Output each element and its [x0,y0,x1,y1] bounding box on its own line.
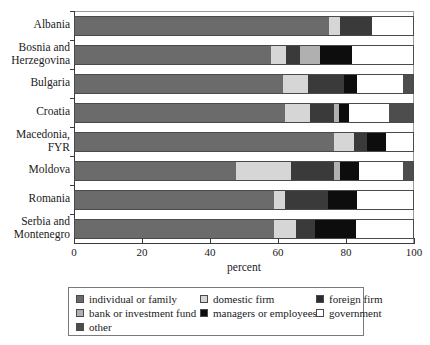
x-axis-tick-label: 20 [122,246,162,258]
bar-row [74,219,414,239]
bar-segment [300,46,320,64]
bar-segment [339,104,349,122]
y-axis-label: Serbia andMontenegro [0,215,70,240]
bar-segment [315,220,356,238]
y-axis-label-line: Bosnia and [0,41,70,54]
bar-segment [357,75,403,93]
bar-segment [75,104,285,122]
legend-grid: individual or familydomestic firmforeign… [76,292,357,334]
x-axis-tick [346,238,347,244]
bar-row [74,161,414,181]
bar-segment [274,191,284,209]
bar-segment [296,220,315,238]
bar-segment [356,220,413,238]
stacked-bar [74,219,414,239]
legend-swatch-icon [76,295,84,303]
y-axis-label: Moldova [0,163,70,176]
stacked-bar [74,103,414,123]
bar-row [74,190,414,210]
x-axis-tick-label: 100 [394,246,430,258]
bar-segment [308,75,343,93]
stacked-bar [74,74,414,94]
y-axis-label-line: Herzegovina [0,54,70,67]
legend-swatch-icon [76,323,84,331]
legend-swatch-icon [316,295,324,303]
bar-segment [75,191,274,209]
bar-segment [75,46,271,64]
stacked-bar [74,161,414,181]
bar-segment [367,133,386,151]
bar-segment [340,17,372,35]
legend-label: government [329,307,382,319]
y-axis-label-line: Serbia and [0,215,70,228]
legend-swatch-icon [76,309,84,317]
bar-segment [403,162,413,180]
bar-segment [340,162,359,180]
x-axis-tick [74,238,75,244]
bar-segment [75,75,283,93]
legend-item: government [316,307,370,319]
x-axis-tick [142,238,143,244]
bar-segment [75,133,334,151]
y-axis-label-line: FYR [0,141,70,154]
legend-swatch-icon [200,309,208,317]
x-axis-tick [210,238,211,244]
bar-segment [334,133,354,151]
bar-row [74,132,414,152]
y-axis-label-line: Moldova [0,163,70,176]
y-axis-tick [70,185,75,186]
y-axis-tick [70,40,75,41]
bar-segment [236,162,292,180]
bar-segment [329,17,341,35]
y-axis-tick [70,11,75,12]
y-axis-tick [70,69,75,70]
y-axis-tick [70,214,75,215]
bar-segment [310,104,334,122]
bar-row [74,103,414,123]
bar-segment [75,220,274,238]
bar-segment [372,17,413,35]
y-axis-tick [70,98,75,99]
bar-segment [389,104,413,122]
bar-segment [291,162,333,180]
x-axis-tick-label: 40 [190,246,230,258]
bar-segment [75,17,329,35]
bar-segment [75,162,236,180]
legend-label: other [89,321,112,333]
y-axis-tick [70,156,75,157]
stacked-bar [74,16,414,36]
y-axis-label-line: Montenegro [0,228,70,241]
legend-label: individual or family [89,293,177,305]
x-axis-tick [278,238,279,244]
bar-segment [352,46,413,64]
y-axis-label-line: Bulgaria [0,76,70,89]
x-axis-tick-label: 0 [54,246,94,258]
bar-row [74,16,414,36]
bar-segment [386,133,413,151]
bar-segment [271,46,286,64]
bar-segment [403,75,413,93]
legend-item: managers or employees [200,307,316,319]
stacked-bar-chart: AlbaniaBosnia andHerzegovinaBulgariaCroa… [0,0,430,345]
legend-item: bank or investment fund [76,307,200,319]
legend-label: domestic firm [213,293,274,305]
legend-label: managers or employees [213,307,317,319]
bar-segment [344,75,358,93]
bar-segment [359,162,403,180]
legend-item: domestic firm [200,293,316,305]
stacked-bar [74,132,414,152]
y-axis-label-line: Romania [0,192,70,205]
legend-item: other [76,321,200,333]
stacked-bar [74,190,414,210]
bar-segment [328,191,357,209]
y-axis-label: Croatia [0,105,70,118]
legend-label: foreign firm [329,293,382,305]
legend-label: bank or investment fund [89,307,196,319]
bar-segment [285,191,329,209]
bar-segment [283,75,308,93]
y-axis-label: Bulgaria [0,76,70,89]
legend-swatch-icon [200,295,208,303]
x-axis-tick-label: 80 [326,246,366,258]
y-axis-label: Bosnia andHerzegovina [0,41,70,66]
bar-segment [285,104,310,122]
